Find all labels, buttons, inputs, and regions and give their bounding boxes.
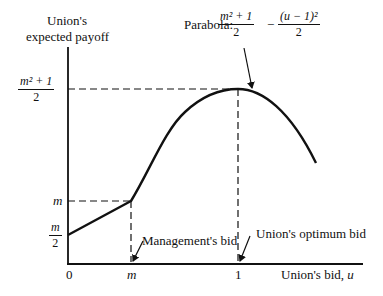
x-axis-label: Union's bid, u — [281, 268, 354, 282]
parabola-fraction-2-denominator: 2 — [296, 25, 302, 39]
y-tick-half-m-numerator: m — [49, 221, 62, 236]
x-tick-m: m — [127, 268, 136, 282]
parabola-minus: − — [267, 18, 274, 32]
x-tick-one: 1 — [235, 268, 242, 282]
y-tick-max-denominator: 2 — [33, 90, 39, 104]
y-axis-label-line1: Union's — [22, 14, 112, 28]
diagram-canvas — [0, 0, 383, 296]
management-bid-label: Management's bid — [142, 234, 237, 248]
y-tick-m: m — [53, 194, 62, 208]
union-optimum-bid-label: Union's optimum bid — [256, 227, 366, 241]
y-tick-half-m: m 2 — [49, 221, 62, 250]
payoff-curve — [68, 89, 316, 235]
y-tick-half-m-denominator: 2 — [52, 236, 58, 250]
y-tick-max: m² + 1 2 — [18, 75, 54, 104]
y-axis-label-line2: expected payoff — [10, 30, 125, 44]
parabola-fraction-2-numerator: (u − 1)² — [278, 10, 320, 25]
parabola-fraction-1-denominator: 2 — [233, 25, 239, 39]
x-axis-variable: u — [347, 267, 354, 282]
parabola-fraction-1-numerator: m² + 1 — [218, 10, 254, 25]
parabola-fraction-2: (u − 1)² 2 — [278, 10, 320, 39]
parabola-arrow — [244, 48, 252, 88]
optimum-bid-arrow — [240, 236, 250, 261]
parabola-fraction-1: m² + 1 2 — [218, 10, 254, 39]
x-tick-zero: 0 — [66, 268, 73, 282]
y-tick-max-numerator: m² + 1 — [18, 75, 54, 90]
x-axis-label-text: Union's bid, — [281, 267, 347, 282]
